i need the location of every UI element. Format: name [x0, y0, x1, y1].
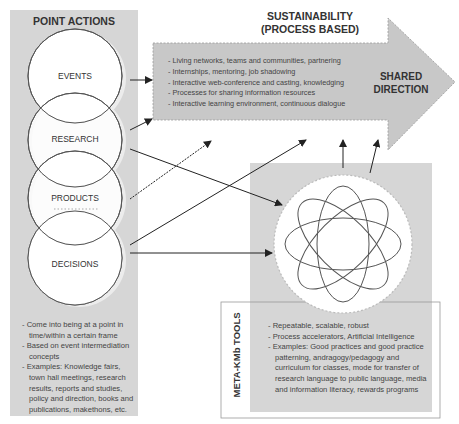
point-actions-bullet: Based on event intermediation concepts: [22, 341, 134, 362]
decisions-label: DECISIONS: [30, 259, 120, 269]
sustainability-bullets: Living networks, teams and communities, …: [168, 56, 368, 110]
sustainability-title-line2: (PROCESS BASED): [210, 23, 410, 36]
meta-tools-title: META-KMb TOOLS: [231, 318, 242, 398]
meta-tools-bullet: Examples: Good practices and good practi…: [268, 342, 428, 395]
sustainability-bullet: Interactive web-conference and casting, …: [168, 78, 368, 89]
sustainability-title-line1: SUSTAINABILITY: [210, 10, 410, 23]
events-label: EVENTS: [30, 71, 120, 81]
decisions-circle: [28, 211, 122, 305]
sustainability-title: SUSTAINABILITY (PROCESS BASED): [210, 10, 410, 36]
products-arrow-to-sustainability: [130, 141, 211, 199]
shared-direction-line1: SHARED: [366, 70, 436, 83]
sustainability-bullet: Living networks, teams and communities, …: [168, 56, 368, 67]
research-label: RESEARCH: [30, 134, 120, 144]
shared-direction-line2: DIRECTION: [366, 83, 436, 96]
point-actions-bullets: Come into being at a point in time/withi…: [22, 320, 134, 415]
point-actions-bullet: Come into being at a point in time/withi…: [22, 320, 134, 341]
meta-circle: [274, 175, 412, 313]
meta-tools-bullet: Repeatable, scalable, robust: [268, 321, 428, 332]
meta-tools-bullets: Repeatable, scalable, robust Process acc…: [268, 321, 428, 395]
point-actions-title: POINT ACTIONS: [10, 15, 138, 28]
point-actions-bullet: Examples: Knowledge fairs, town hall mee…: [22, 362, 134, 415]
meta-tools-bullet: Process accelerators, Artificial Intelli…: [268, 332, 428, 343]
sustainability-bullet: Interactive learning environment, contin…: [168, 99, 368, 110]
products-label: PRODUCTS: [30, 193, 120, 203]
sustainability-bullet: Processes for sharing information resour…: [168, 88, 368, 99]
shared-direction-label: SHARED DIRECTION: [366, 70, 436, 96]
sustainability-bullet: Internships, mentoring, job shadowing: [168, 67, 368, 78]
